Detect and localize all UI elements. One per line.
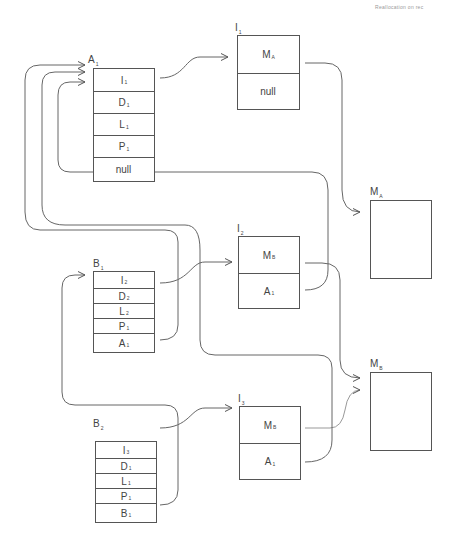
field-text: I [121,275,124,286]
field-l: L1 [96,474,156,489]
field-text: M [263,250,271,261]
field-p: P1 [94,319,154,334]
field-text: I [121,75,124,86]
label-text: B [93,418,100,429]
field-l: L2 [94,304,154,319]
record-i2: MB A1 [238,236,300,309]
field-next: A1 [94,334,154,352]
field-text: M [262,49,270,60]
field-text: A [264,286,271,297]
field-sub: A [272,54,275,60]
field-sub: 2 [126,310,129,316]
field-sub: 1 [126,325,129,331]
field-m: MB [239,237,299,274]
field-sub: 1 [272,461,275,467]
field-next: A1 [239,274,299,308]
field-next: null [238,74,299,109]
label-text: I [237,223,240,234]
field-text: A [119,338,126,349]
field-text: L [119,119,125,130]
field-sub: 3 [127,449,130,455]
node-label-i1: I1 [235,22,242,35]
node-label-i2: I2 [237,223,244,236]
field-text: null [260,86,276,97]
field-m: MA [238,36,299,74]
field-text: B [121,508,128,519]
field-l: L1 [94,114,154,136]
label-text: I [238,393,241,404]
record-b1: I2 D2 L2 P1 A1 [93,271,155,353]
field-i: I3 [96,442,156,459]
label-sub: A [379,193,382,199]
field-next: A1 [240,444,300,479]
label-sub: 2 [101,425,104,431]
label-text: B [93,258,100,269]
node-label-ma: MA [370,186,383,199]
node-label-i3: I3 [238,393,245,406]
field-text: D [118,291,125,302]
field-sub: 1 [271,290,274,296]
field-next: null [94,158,154,181]
field-text: P [121,491,128,502]
field-d: D2 [94,289,154,304]
field-sub: 2 [125,279,128,285]
field-i: I2 [94,272,154,289]
field-sub: 1 [128,512,131,518]
field-text: D [118,97,125,108]
field-sub: B [272,254,275,260]
label-text: I [235,22,238,33]
field-sub: 1 [126,342,129,348]
record-i1: MA null [237,35,300,110]
node-label-b2: B2 [93,418,103,431]
field-d: D1 [96,459,156,474]
field-text: M [264,420,272,431]
field-sub: B [273,424,276,430]
record-b2: I3 D1 L1 P1 B1 [95,441,157,523]
field-next: B1 [96,504,156,522]
field-i: I1 [94,69,154,92]
node-label-b1: B1 [93,258,103,271]
field-m: MB [240,407,300,444]
memory-block-a [370,200,432,279]
field-sub: 1 [129,465,132,471]
field-sub: 1 [128,480,131,486]
field-sub: 1 [126,124,129,130]
field-p: P1 [96,489,156,504]
field-text: L [119,306,125,317]
field-p: P1 [94,136,154,158]
field-sub: 2 [127,295,130,301]
label-text: M [370,186,378,197]
field-sub: 1 [126,146,129,152]
record-a1: I1 D1 L1 P1 null [93,68,155,182]
label-sub: 1 [96,61,99,67]
field-text: I [123,445,126,456]
field-sub: 1 [128,495,131,501]
field-text: P [119,321,126,332]
field-text: null [116,164,132,175]
field-sub: 1 [125,79,128,85]
field-sub: 1 [127,102,130,108]
label-text: A [88,54,95,65]
field-d: D1 [94,92,154,114]
label-text: M [370,358,378,369]
record-i3: MB A1 [239,406,301,480]
field-text: P [119,141,126,152]
field-text: D [120,461,127,472]
field-text: A [265,456,272,467]
node-label-a1: A1 [88,54,98,67]
node-label-mb: MB [370,358,383,371]
field-text: L [121,476,127,487]
label-sub: B [379,365,382,371]
memory-block-b [370,372,432,451]
